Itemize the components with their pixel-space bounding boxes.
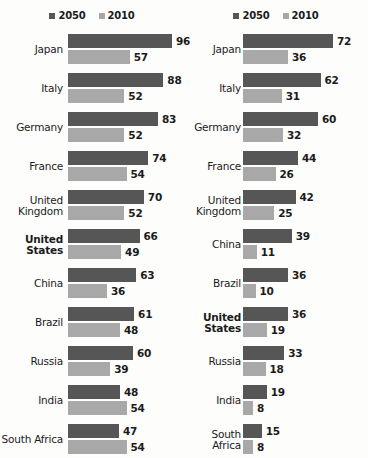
bar-row: India198 (184, 381, 368, 420)
bar-line-2010: 54 (68, 401, 182, 415)
bar-line-2050: 62 (243, 73, 366, 87)
bar-2010 (243, 362, 266, 376)
bar-row: Brazil3610 (184, 264, 368, 303)
bar-group: 3318 (243, 346, 366, 376)
bar-value-label: 26 (280, 168, 294, 180)
bar-2050 (68, 346, 133, 360)
bar-row: France4426 (184, 147, 368, 186)
bar-value-label: 36 (292, 269, 306, 281)
bar-row: United States6649 (0, 225, 184, 264)
bar-line-2010: 52 (68, 206, 182, 220)
bar-line-2010: 10 (243, 284, 366, 298)
bar-group: 9657 (68, 34, 182, 64)
category-label: China (0, 278, 63, 290)
bar-value-label: 11 (261, 246, 275, 258)
bar-2050 (68, 268, 136, 282)
bar-line-2010: 48 (68, 323, 182, 337)
bar-value-label: 70 (148, 191, 162, 203)
bar-2010 (68, 89, 124, 103)
bar-value-label: 49 (125, 246, 139, 258)
category-label: Russia (0, 356, 63, 368)
bar-2010 (68, 440, 127, 454)
legend-label-2010: 2010 (292, 11, 319, 21)
bar-value-label: 54 (131, 402, 145, 414)
bar-value-label: 72 (337, 35, 351, 47)
bar-value-label: 63 (140, 269, 154, 281)
bar-line-2010: 18 (243, 362, 366, 376)
bar-line-2050: 15 (243, 424, 366, 438)
bar-value-label: 36 (111, 285, 125, 297)
bar-value-label: 57 (134, 51, 148, 63)
bar-row: Germany8352 (0, 108, 184, 147)
bar-value-label: 60 (322, 113, 336, 125)
bar-value-label: 8 (257, 441, 264, 453)
bar-2010 (243, 206, 274, 220)
bar-group: 4225 (243, 190, 366, 220)
category-label: Brazil (0, 317, 63, 329)
bar-value-label: 54 (131, 168, 145, 180)
bar-2010 (68, 323, 120, 337)
bar-2050 (68, 34, 172, 48)
bar-2010 (243, 401, 253, 415)
bar-line-2010: 31 (243, 89, 366, 103)
bar-group: 3610 (243, 268, 366, 298)
bar-row: India4854 (0, 381, 184, 420)
bar-2050 (243, 268, 288, 282)
bar-2050 (68, 73, 163, 87)
bar-value-label: 74 (152, 152, 166, 164)
bar-value-label: 48 (124, 386, 138, 398)
bar-2050 (243, 307, 288, 321)
bar-value-label: 61 (138, 308, 152, 320)
bar-group: 4854 (68, 385, 182, 415)
bar-value-label: 8 (257, 402, 264, 414)
bar-line-2050: 60 (243, 112, 366, 126)
bar-group: 6336 (68, 268, 182, 298)
bar-group: 8852 (68, 73, 182, 103)
bar-2010 (68, 245, 121, 259)
bar-group: 4426 (243, 151, 366, 181)
bar-2050 (243, 34, 333, 48)
bar-line-2050: 63 (68, 268, 182, 282)
bar-2050 (243, 151, 298, 165)
bar-2050 (68, 385, 120, 399)
bar-line-2010: 39 (68, 362, 182, 376)
legend-item-2010: 2010 (283, 11, 319, 21)
bar-2010 (68, 206, 124, 220)
category-label: United States (0, 233, 63, 256)
bar-group: 3619 (243, 307, 366, 337)
bar-line-2050: 19 (243, 385, 366, 399)
bar-value-label: 19 (271, 324, 285, 336)
category-label: China (184, 239, 241, 251)
bar-line-2010: 8 (243, 440, 366, 454)
bar-value-label: 19 (271, 386, 285, 398)
bar-line-2010: 52 (68, 89, 182, 103)
chart-panel-left: 2050 2010 Japan9657Italy8852Germany8352F… (0, 0, 184, 422)
bar-2050 (68, 424, 119, 438)
legend-item-2050: 2050 (233, 11, 269, 21)
bar-group: 6231 (243, 73, 366, 103)
bar-2010 (243, 440, 253, 454)
chart-panel-right: 2050 2010 Japan7236Italy6231Germany6032F… (184, 0, 368, 422)
bar-line-2010: 36 (243, 50, 366, 64)
bar-group: 6148 (68, 307, 182, 337)
legend-right: 2050 2010 (184, 11, 368, 21)
bar-2010 (243, 284, 256, 298)
bar-line-2010: 54 (68, 167, 182, 181)
bar-line-2010: 32 (243, 128, 366, 142)
bar-2050 (68, 229, 140, 243)
bar-line-2050: 83 (68, 112, 182, 126)
bar-value-label: 18 (270, 363, 284, 375)
category-label: United Kingdom (184, 194, 241, 217)
bar-line-2050: 42 (243, 190, 366, 204)
bar-line-2050: 48 (68, 385, 182, 399)
bar-row: Russia6039 (0, 342, 184, 381)
bar-value-label: 52 (128, 129, 142, 141)
bar-row: Brazil6148 (0, 303, 184, 342)
bar-value-label: 31 (286, 90, 300, 102)
bar-2050 (243, 229, 292, 243)
bar-2010 (243, 50, 288, 64)
bar-line-2050: 44 (243, 151, 366, 165)
bar-line-2050: 66 (68, 229, 182, 243)
bar-row: Italy6231 (184, 69, 368, 108)
